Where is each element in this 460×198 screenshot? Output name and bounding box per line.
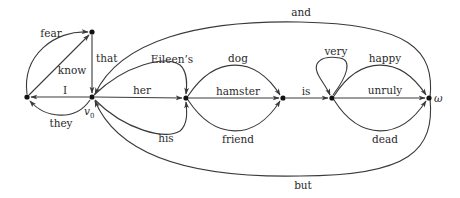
label-but: but [294, 179, 312, 191]
node-top [89, 29, 94, 34]
edge-his [95, 100, 187, 134]
node-mid3 [329, 95, 334, 100]
label-that: that [96, 52, 118, 64]
label-fear: fear [40, 27, 62, 39]
edge-fear [26, 32, 88, 94]
label-hamster: hamster [216, 85, 261, 97]
label-and: and [291, 6, 311, 18]
label-I: I [63, 84, 67, 96]
label-dog: dog [228, 52, 248, 64]
label-eileens: Eileen’s [151, 53, 193, 65]
word-graph-diagram: fear know that I they and Eileen’s her h… [0, 0, 460, 198]
label-is: is [302, 85, 311, 97]
edge-dead [334, 100, 426, 131]
node-v0 [89, 94, 94, 99]
label-v0: v0 [84, 105, 94, 120]
label-his: his [158, 132, 174, 144]
label-friend: friend [222, 133, 254, 145]
label-know: know [58, 64, 86, 76]
label-they: they [49, 117, 72, 129]
label-unruly: unruly [368, 84, 403, 96]
node-mid1 [183, 95, 188, 100]
node-mid2 [280, 95, 285, 100]
edge-they [30, 100, 90, 115]
label-v0-sub: 0 [90, 112, 94, 120]
edge-very [316, 57, 347, 95]
label-very: very [323, 45, 347, 57]
label-dead: dead [372, 133, 398, 145]
label-her: her [133, 84, 152, 96]
edge-her [95, 97, 182, 98]
edge-friend [188, 100, 280, 131]
label-happy: happy [369, 52, 401, 64]
node-left [24, 94, 29, 99]
label-omega: ω [434, 92, 443, 104]
node-omega [426, 95, 431, 100]
